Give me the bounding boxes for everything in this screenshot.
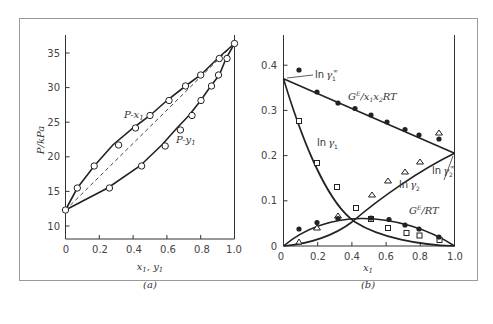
y-tick-label: 0.2 [261,150,277,161]
x-tick-label: 0.2 [92,244,108,255]
figure: 10 15 20 25 30 35 0 0.2 0.4 0.6 0.8 1.0 … [0,0,493,324]
ln-gamma1-inf-pointer [287,75,313,78]
panel-a: 10 15 20 25 30 35 0 0.2 0.4 0.6 0.8 1.0 … [35,35,242,290]
x-tick-label: 0 [63,244,69,255]
x-tick-label: 0.4 [126,244,142,255]
x-tick-label: 0.2 [310,251,326,262]
y-tick-label: 0.3 [261,105,277,116]
y-tick-label: 0 [271,241,277,252]
panel-a-x-tick-labels: 0 0.2 0.4 0.6 0.8 1.0 [63,244,242,255]
panel-caption: (a) [143,279,157,290]
panel-b: 0 0.1 0.2 0.3 0.4 0.2 0.4 0.6 0.8 1.0 x1… [261,35,463,290]
x-tick-label: 0.6 [160,244,176,255]
ln-gamma1-annotation: lnγ1 [317,137,338,150]
y-tick-label: 30 [47,82,60,93]
ln-gamma2-annotation: lnγ2 [399,179,420,192]
p-y1-annotation: P-y1 [175,134,196,147]
x-tick-label: 0.4 [344,251,360,262]
p-x1-annotation: P-x1 [123,109,144,122]
x-tick-label: 1.0 [447,251,463,262]
y-tick-label: 20 [47,151,60,162]
x-tick-label: 0.8 [412,251,428,262]
p-y1-markers [106,55,230,191]
ge-rt-annotation: GE/RT [409,204,440,216]
panel-caption: (b) [361,279,375,290]
x-tick-label: 0.6 [378,251,394,262]
panel-b-x-tick-labels: 0.2 0.4 0.6 0.8 1.0 [310,251,463,262]
panel-a-axes [66,35,235,239]
panel-a-y-tick-labels: 10 15 20 25 30 35 [47,48,60,232]
x-tick-label: 1.0 [226,244,242,255]
x-axis-label: x1, y1 [137,261,164,274]
ge-x1x2rt-annotation: GE/x1x2RT [348,90,398,103]
y-axis-label: P/kPa [35,126,46,155]
y-tick-label: 0.4 [261,60,277,71]
y-tick-label: 10 [47,221,60,232]
x-tick-label: 0 [278,251,284,262]
y-tick-label: 35 [47,48,60,59]
ln-gamma2-inf-annotation: lnγ2∞ [432,163,455,178]
panel-b-y-tick-labels: 0 0.1 0.2 0.3 0.4 [261,60,277,252]
x-tick-label: 0.8 [194,244,210,255]
x-axis-label: x1 [363,262,373,275]
raoult-dashed-line [66,44,235,211]
y-tick-label: 15 [47,186,60,197]
y-tick-label: 25 [47,117,60,128]
y-tick-label: 0.1 [261,195,277,206]
ln-gamma1-inf-annotation: lnγ1∞ [315,67,338,82]
